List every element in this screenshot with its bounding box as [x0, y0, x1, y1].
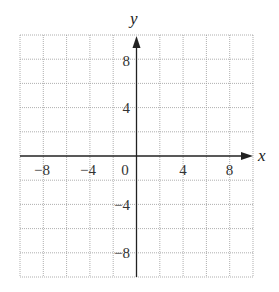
x-axis-arrow-icon [241, 152, 253, 160]
x-tick-label: 8 [226, 162, 234, 178]
y-tick-label: −4 [114, 197, 130, 213]
coordinate-plane: x y −8 −4 0 4 8 8 4 −4 −8 [0, 0, 279, 292]
x-tick-label: −4 [80, 162, 96, 178]
x-tick-label: 0 [121, 162, 129, 178]
x-tick-label: 4 [179, 162, 187, 178]
y-axis-label: y [128, 9, 138, 28]
x-tick-label: −8 [34, 162, 50, 178]
y-tick-label: −8 [114, 245, 130, 261]
y-tick-label: 8 [123, 53, 131, 69]
y-tick-labels: 8 4 −4 −8 [114, 53, 130, 261]
x-axis-label: x [257, 146, 266, 165]
y-axis-arrow-icon [133, 36, 141, 48]
y-tick-label: 4 [123, 100, 131, 116]
x-tick-labels: −8 −4 0 4 8 [34, 162, 233, 178]
